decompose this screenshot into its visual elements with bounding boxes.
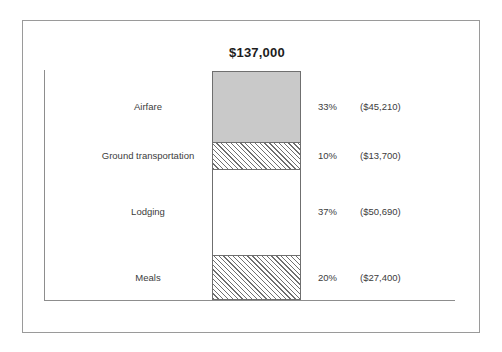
- x-axis-line: [44, 300, 455, 301]
- y-axis-line: [44, 70, 45, 301]
- bar-segment-airfare: [212, 71, 301, 142]
- bar-segment-meals: [212, 255, 301, 300]
- bar-segment-ground-transportation: [212, 142, 301, 169]
- chart-canvas: $137,000 Airfare 33% ($45,210) Ground tr…: [0, 0, 502, 352]
- chart-title: $137,000: [182, 45, 332, 60]
- bar-segment-lodging: [212, 169, 301, 255]
- stacked-bar: [212, 71, 301, 300]
